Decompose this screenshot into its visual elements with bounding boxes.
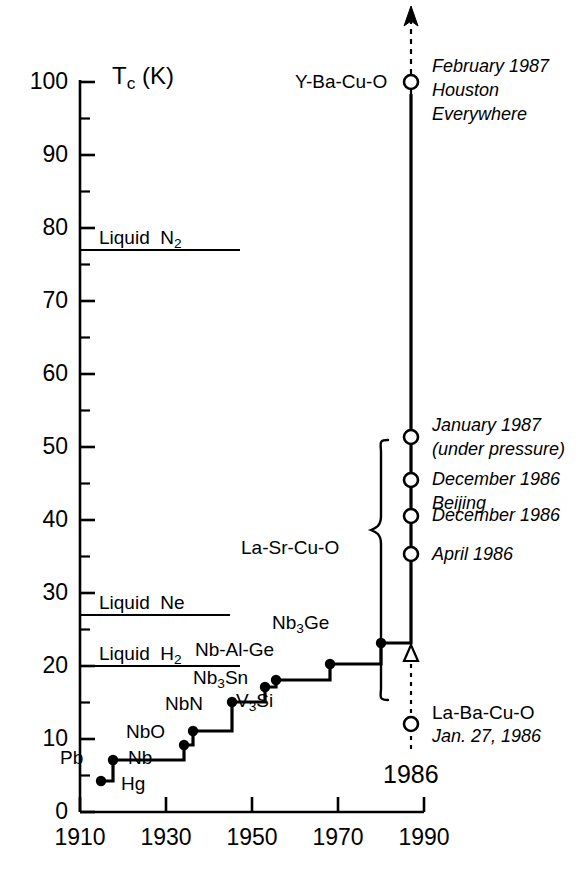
material-label-y-ba-cu-o: Y-Ba-Cu-O [295,72,387,91]
y-tick-label-100: 100 [6,70,68,93]
coolant-prefix: Liquid [99,592,150,613]
staircase-path [101,94,411,781]
point-nb3sn [271,675,281,685]
annotation-jan-1987-line1: January 1987 [432,416,541,434]
nb3sn-element: Nb [193,667,217,688]
y-tick-label-50: 50 [6,435,68,458]
point-nbo [188,726,198,736]
annotation-dec-1986-beijing-line1: December 1986 [432,470,560,488]
coolant-label-liquid-n2: Liquid N2 [99,228,182,251]
annotation-jan-1987-line2: (under pressure) [432,440,565,458]
coolant-label-liquid-ne: Liquid Ne [99,593,185,612]
series-label-v3si: V3Si [236,691,273,714]
nb3sn-subscript: 3 [217,676,225,691]
nb3ge-tail: Ge [304,612,329,633]
nb3sn-tail: Sn [225,667,248,688]
la-ba-cu-o-triangle [404,645,418,661]
y-axis-title: Tc (K) [112,64,174,92]
y-axis-title-unit: (K) [135,62,174,89]
nb3ge-element: Nb [272,612,296,633]
annotation-feb-1987-line3: Everywhere [432,105,527,123]
coolant-species: H [160,643,174,664]
point-dec-1986 [404,509,418,523]
point-nb [179,740,189,750]
brace-label-la-sr-cu-o: La-Sr-Cu-O [241,538,339,557]
annotation-feb-1987-line1: February 1987 [432,57,549,75]
coolant-species: N [160,227,174,248]
series-label-nb: Nb [128,748,152,767]
y-tick-label-70: 70 [6,289,68,312]
x-major-ticks [80,797,424,812]
nb3ge-subscript: 3 [296,621,304,636]
x-tick-label-1990: 1990 [393,826,455,849]
annotation-feb-1987-line2: Houston [432,81,499,99]
y-tick-label-80: 80 [6,216,68,239]
y-tick-label-60: 60 [6,362,68,385]
superconductor-tc-chart: 100 90 80 70 60 50 40 30 20 10 0 1910 19… [0,0,580,872]
point-dec-1986-beijing [404,473,418,487]
v3si-element: V [236,690,249,711]
y-tick-label-10: 10 [6,727,68,750]
series-label-nb-al-ge: Nb-Al-Ge [195,640,274,659]
point-y-ba-cu-o [404,75,418,89]
coolant-species: Ne [160,592,184,613]
v3si-tail: Si [256,690,273,711]
point-apr-1986 [404,547,418,561]
coolant-prefix: Liquid [99,227,150,248]
point-nb-al-ge [325,659,335,669]
y-tick-label-20: 20 [6,654,68,677]
series-label-hg: Hg [121,774,145,793]
annotation-apr-1986: April 1986 [432,545,513,563]
series-label-nbn: NbN [165,694,203,713]
x-tick-label-1930: 1930 [135,826,197,849]
series-label-nbo: NbO [126,722,165,741]
coolant-subscript: 2 [174,236,182,251]
x-tick-label-1950: 1950 [221,826,283,849]
y-axis-title-main: T [112,62,127,89]
annotation-la-ba-cu-o-date: Jan. 27, 1986 [432,727,541,745]
y-tick-label-90: 90 [6,143,68,166]
coolant-subscript: 2 [174,652,182,667]
la-ba-cu-o-marker [404,645,418,752]
point-la-ba-cu-o [404,717,418,731]
series-label-nb3ge: Nb3Ge [272,613,329,636]
series-label-nb3sn: Nb3Sn [193,668,248,691]
y-tick-label-0: 0 [6,800,68,823]
point-jan-1987 [404,430,418,444]
y-tick-label-40: 40 [6,508,68,531]
callout-year-1986: 1986 [383,762,439,787]
material-label-la-ba-cu-o: La-Ba-Cu-O [432,703,534,722]
x-tick-label-1910: 1910 [49,826,111,849]
coolant-label-liquid-h2: Liquid H2 [99,644,182,667]
annotation-dec-1986: December 1986 [432,506,560,524]
coolant-prefix: Liquid [99,643,150,664]
y-tick-label-30: 30 [6,581,68,604]
series-label-pb: Pb [60,748,83,767]
point-pb [108,755,118,765]
point-hg [96,776,106,786]
x-tick-label-1970: 1970 [307,826,369,849]
